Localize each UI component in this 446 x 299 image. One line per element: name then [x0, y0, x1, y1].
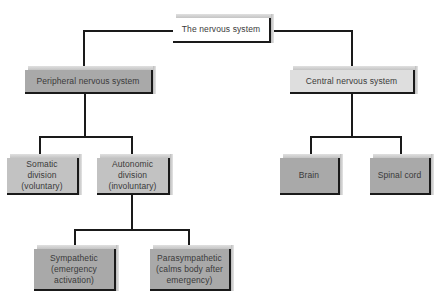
- node-label: Autonomic division (involuntary): [108, 159, 156, 192]
- connector-autonomic-horizontal: [74, 229, 189, 231]
- node-label: Central nervous system: [306, 76, 397, 87]
- node-label: Parasympathetic (calms body after emerge…: [156, 253, 223, 286]
- node-label: Brain: [299, 170, 319, 181]
- node-peripheral-nervous-system: Peripheral nervous system: [25, 70, 153, 94]
- node-brain: Brain: [280, 158, 340, 195]
- connector-peripheral-down: [84, 93, 86, 136]
- node-label: Sympathetic (emergency activation): [50, 253, 98, 286]
- connector-peripheral-horizontal: [39, 136, 132, 138]
- node-sympathetic: Sympathetic (emergency activation): [34, 249, 116, 291]
- node-label: The nervous system: [182, 24, 260, 35]
- node-autonomic-division: Autonomic division (involuntary): [97, 158, 170, 195]
- node-nervous-system: The nervous system: [173, 18, 271, 43]
- connector-central-down: [351, 93, 353, 136]
- connector-root-left-vertical: [83, 30, 85, 70]
- node-somatic-division: Somatic division (voluntary): [7, 158, 79, 195]
- connector-root-right-horizontal: [271, 30, 352, 32]
- node-label: Peripheral nervous system: [36, 76, 139, 87]
- connector-central-horizontal: [310, 136, 401, 138]
- node-label: Spinal cord: [378, 170, 422, 181]
- connector-root-left-horizontal: [83, 30, 174, 32]
- node-central-nervous-system: Central nervous system: [290, 70, 415, 94]
- node-label: Somatic division (voluntary): [21, 159, 62, 192]
- connector-root-right-vertical: [351, 30, 353, 70]
- connector-autonomic-down: [131, 194, 133, 230]
- node-parasympathetic: Parasympathetic (calms body after emerge…: [150, 249, 231, 291]
- node-spinal-cord: Spinal cord: [370, 158, 431, 195]
